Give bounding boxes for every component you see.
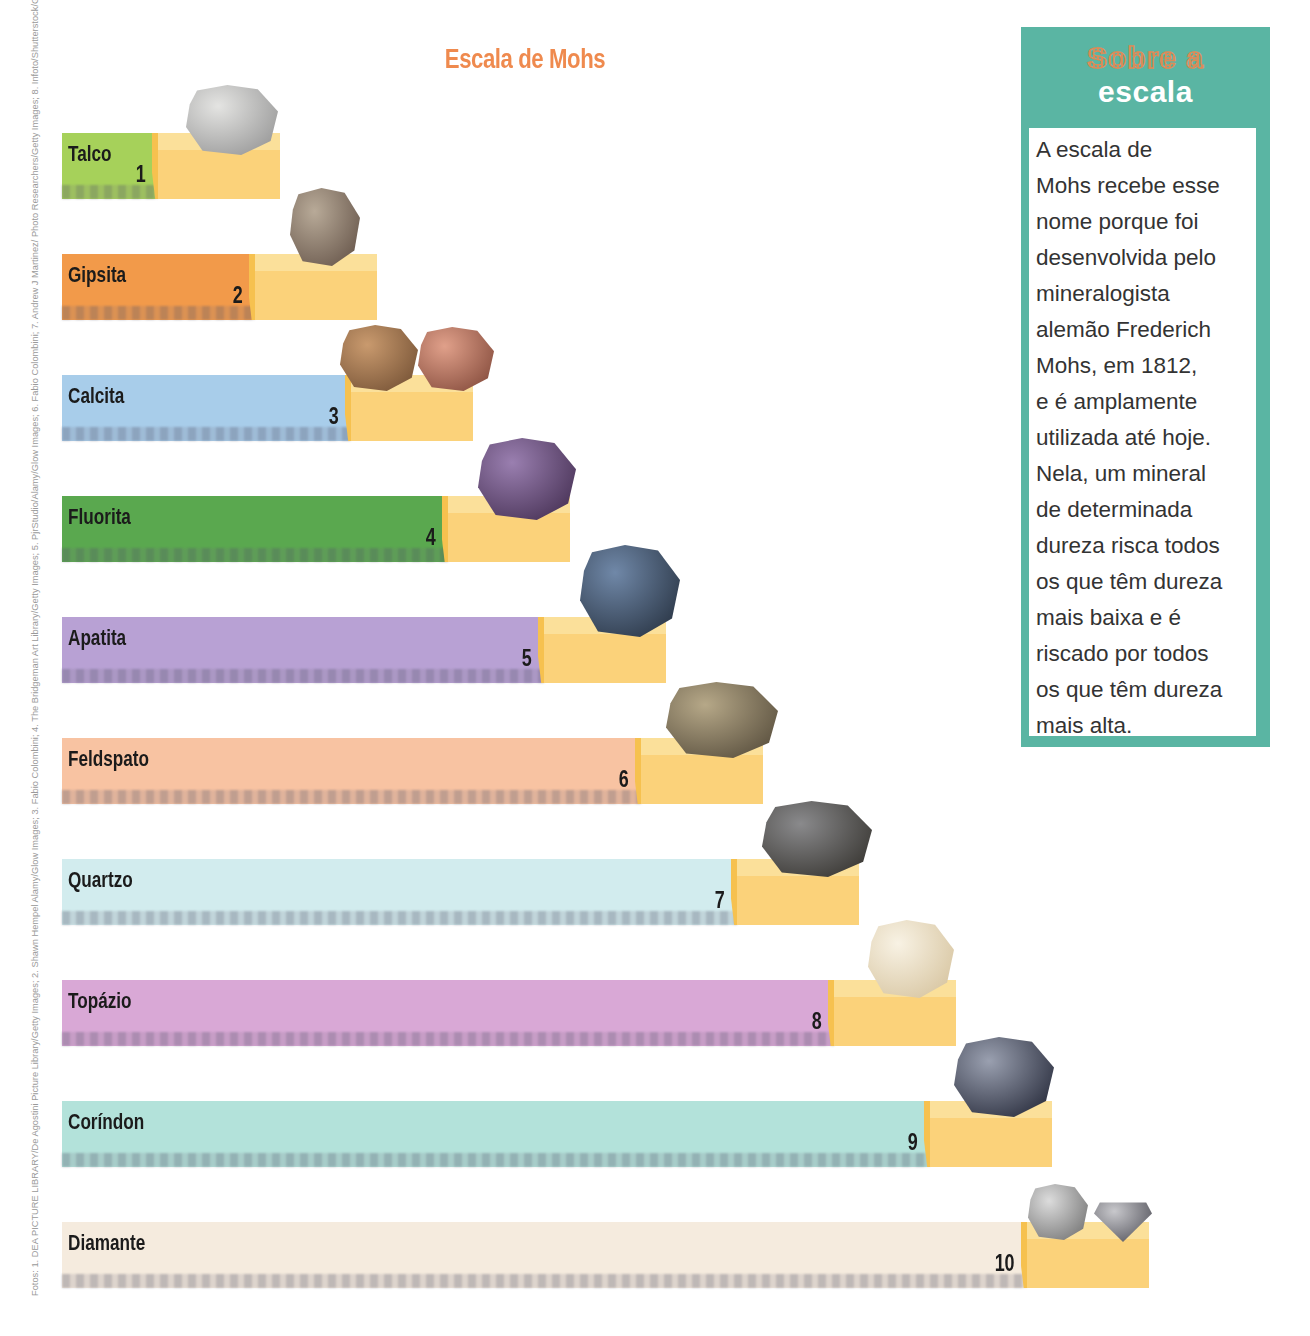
mineral-row: Topázio8 xyxy=(62,980,962,1046)
mineral-name: Gipsita xyxy=(68,262,126,288)
bar-shadow xyxy=(62,669,544,683)
mineral-row: Calcita3 xyxy=(62,375,479,441)
bar-shadow xyxy=(62,548,448,562)
chart-title: Escala de Mohs xyxy=(439,44,611,75)
mineral-name: Calcita xyxy=(68,383,124,409)
mineral-name: Feldspato xyxy=(68,746,149,772)
hardness-value: 5 xyxy=(522,645,532,672)
hardness-value: 4 xyxy=(426,524,436,551)
bar-shadow xyxy=(62,1153,930,1167)
hardness-bar: Coríndon9 xyxy=(62,1101,930,1167)
hardness-bar: Topázio8 xyxy=(62,980,834,1046)
mineral-name: Topázio xyxy=(68,988,132,1014)
bar-shadow xyxy=(62,1032,834,1046)
hardness-value: 6 xyxy=(619,766,629,793)
panel-body: A escala de Mohs recebe esse nome porque… xyxy=(1029,128,1256,736)
mineral-row: Gipsita2 xyxy=(62,254,383,320)
hardness-value: 3 xyxy=(329,403,339,430)
mineral-row: Diamante10 xyxy=(62,1222,1155,1288)
mineral-row: Talco1 xyxy=(62,133,286,199)
bar-shadow xyxy=(62,911,737,925)
hardness-value: 9 xyxy=(908,1129,918,1156)
cropped-heading-fragment xyxy=(0,0,1310,6)
mineral-name: Apatita xyxy=(68,625,126,651)
bar-shadow xyxy=(62,427,351,441)
bar-shadow xyxy=(62,306,255,320)
mineral-name: Coríndon xyxy=(68,1109,144,1135)
panel-text: A escala de Mohs recebe esse nome porque… xyxy=(1036,132,1256,744)
panel-heading-line2: escala xyxy=(1021,75,1270,109)
mineral-name: Quartzo xyxy=(68,867,133,893)
hardness-bar: Diamante10 xyxy=(62,1222,1027,1288)
hardness-value: 8 xyxy=(812,1008,822,1035)
hardness-bar: Gipsita2 xyxy=(62,254,255,320)
about-scale-panel: Sobre a escala A escala de Mohs recebe e… xyxy=(1021,27,1270,747)
photo-credits: Fotos: 1. DEA PICTURE LIBRARY/De Agostin… xyxy=(30,126,41,1296)
mineral-name: Fluorita xyxy=(68,504,131,530)
hardness-bar: Talco1 xyxy=(62,133,158,199)
hardness-bar: Apatita5 xyxy=(62,617,544,683)
mineral-row: Feldspato6 xyxy=(62,738,769,804)
hardness-bar: Quartzo7 xyxy=(62,859,737,925)
mineral-name: Talco xyxy=(68,141,112,167)
mineral-row: Coríndon9 xyxy=(62,1101,1058,1167)
mineral-specimen-photo xyxy=(418,327,494,391)
hardness-bar: Fluorita4 xyxy=(62,496,448,562)
hardness-value: 7 xyxy=(715,887,725,914)
pedestal-block xyxy=(249,254,377,320)
mineral-row: Fluorita4 xyxy=(62,496,576,562)
hardness-value: 10 xyxy=(995,1250,1015,1277)
hardness-value: 1 xyxy=(136,161,146,188)
panel-heading-line1: Sobre a xyxy=(1021,41,1270,75)
mineral-name: Diamante xyxy=(68,1230,145,1256)
hardness-bar: Feldspato6 xyxy=(62,738,641,804)
mineral-row: Quartzo7 xyxy=(62,859,865,925)
hardness-value: 2 xyxy=(233,282,243,309)
mineral-row: Apatita5 xyxy=(62,617,672,683)
bar-shadow xyxy=(62,1274,1027,1288)
bar-shadow xyxy=(62,790,641,804)
hardness-bar: Calcita3 xyxy=(62,375,351,441)
